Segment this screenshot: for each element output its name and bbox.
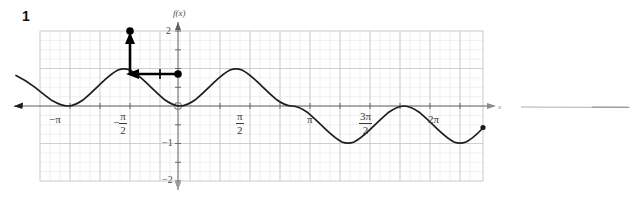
- y-tick-label-2: 2: [166, 25, 171, 36]
- x-tick-label-pi: π: [307, 113, 313, 125]
- fraction-3pi-2: 3π2: [359, 111, 372, 136]
- fraction-denominator: 2: [119, 125, 127, 136]
- curve-right-endpoint: [480, 125, 485, 130]
- y-axis-arrow-down: [175, 182, 181, 190]
- x-tick-label-neg-pi: −π: [49, 113, 61, 125]
- graph-svg: [0, 0, 636, 199]
- x-tick-label-neg-pi-over-2: −π2: [113, 111, 127, 136]
- x-axis-label: x: [498, 103, 501, 111]
- fraction-numerator: π: [236, 111, 244, 122]
- fraction-denominator: 2: [236, 125, 244, 136]
- fraction-denominator: 2: [359, 125, 372, 136]
- axis-lines: [14, 22, 496, 190]
- y-axis-label: f(x): [173, 8, 186, 18]
- y-tick-label-neg-1: −1: [162, 137, 173, 148]
- fraction-numerator: 3π: [359, 111, 372, 122]
- x-tick-label-3pi-over-2: 3π2: [359, 111, 372, 136]
- peak-point: [126, 27, 134, 35]
- annotation-group: [125, 27, 182, 79]
- plot-area: [0, 0, 636, 199]
- figure-page: 1: [0, 0, 636, 199]
- x-tick-label-2pi: 2π: [428, 113, 439, 125]
- fraction-neg-pi-2: π2: [119, 111, 127, 136]
- fraction-pi-2: π2: [236, 111, 244, 136]
- y-tick-label-neg-2: −2: [162, 174, 173, 185]
- x-axis-arrow-right: [487, 103, 496, 109]
- x-tick-label-pi-over-2: π2: [236, 111, 244, 136]
- y-intercept-point: [174, 70, 182, 78]
- y-axis-arrow-up: [175, 22, 181, 30]
- fraction-numerator: π: [119, 111, 127, 122]
